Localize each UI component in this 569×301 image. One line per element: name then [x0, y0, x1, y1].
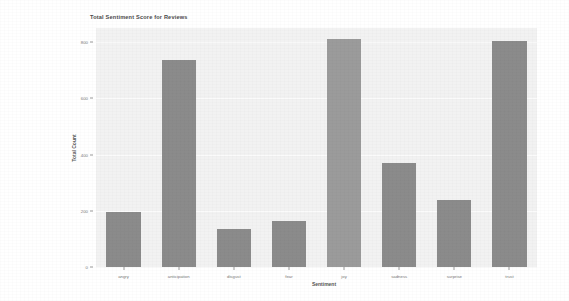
x-tick-label-sadness: sadness — [391, 274, 407, 279]
chart-title: Total Sentiment Score for Reviews — [90, 14, 188, 20]
bar-surprise — [437, 200, 471, 267]
bar-joy — [327, 39, 361, 267]
y-tick-mark — [90, 98, 93, 99]
y-tick-label: 0 — [86, 265, 88, 270]
y-tick-label: 200 — [81, 208, 88, 213]
y-tick-mark — [90, 210, 93, 211]
gridline — [96, 267, 537, 268]
x-tick-label-surprise: surprise — [447, 274, 462, 279]
x-tick-label-fear: fear — [285, 274, 292, 279]
bar-disgust — [217, 229, 251, 267]
bar-angry — [106, 212, 140, 267]
x-tick-mark — [344, 267, 345, 270]
x-tick-mark — [178, 267, 179, 270]
y-axis-label: Total Count — [71, 134, 77, 161]
plot-area — [96, 28, 537, 267]
y-tick-label: 400 — [81, 152, 88, 157]
x-tick-label-trust: trust — [505, 274, 513, 279]
bar-fear — [272, 221, 306, 267]
y-tick-mark — [90, 42, 93, 43]
x-tick-mark — [123, 267, 124, 270]
bar-trust — [492, 41, 526, 267]
x-tick-mark — [454, 267, 455, 270]
x-axis-label: Sentiment — [312, 281, 336, 287]
x-tick-mark — [233, 267, 234, 270]
x-tick-mark — [288, 267, 289, 270]
y-tick-label: 800 — [81, 40, 88, 45]
y-axis: 0200400600800 — [0, 0, 96, 301]
y-tick-mark — [90, 267, 93, 268]
x-tick-mark — [399, 267, 400, 270]
x-tick-mark — [509, 267, 510, 270]
bar-series — [96, 28, 537, 267]
bar-chart-figure: Total Sentiment Score for Reviews 020040… — [0, 0, 569, 301]
bar-sadness — [382, 163, 416, 267]
x-tick-label-joy: joy — [341, 274, 347, 279]
y-tick-mark — [90, 154, 93, 155]
y-tick-label: 600 — [81, 96, 88, 101]
x-tick-label-anticipation: anticipation — [168, 274, 190, 279]
x-tick-label-angry: angry — [118, 274, 129, 279]
x-tick-label-disgust: disgust — [227, 274, 241, 279]
bar-anticipation — [162, 60, 196, 267]
